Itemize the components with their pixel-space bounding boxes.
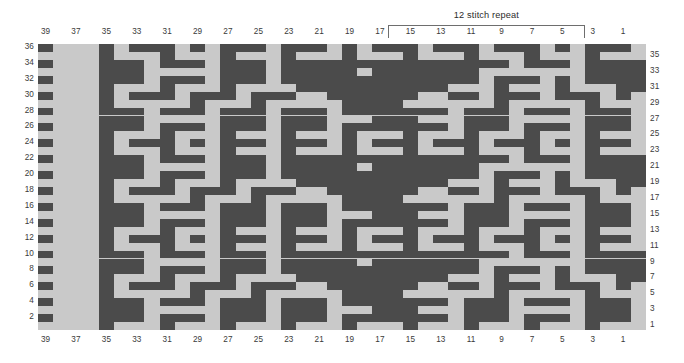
stitch-cell[interactable] [236,139,251,147]
stitch-cell[interactable] [372,251,387,259]
stitch-cell[interactable] [631,68,646,76]
stitch-cell[interactable] [220,92,235,100]
stitch-cell[interactable] [524,235,539,243]
stitch-cell[interactable] [403,123,418,131]
stitch-cell[interactable] [99,116,114,124]
stitch-cell[interactable] [357,155,372,163]
stitch-cell[interactable] [160,274,175,282]
stitch-cell[interactable] [99,68,114,76]
stitch-cell[interactable] [38,203,53,211]
stitch-cell[interactable] [114,203,129,211]
stitch-cell[interactable] [494,187,509,195]
stitch-cell[interactable] [342,139,357,147]
stitch-cell[interactable] [99,227,114,235]
stitch-cell[interactable] [448,163,463,171]
stitch-cell[interactable] [403,211,418,219]
stitch-cell[interactable] [631,84,646,92]
stitch-cell[interactable] [114,155,129,163]
stitch-cell[interactable] [616,116,631,124]
stitch-cell[interactable] [372,163,387,171]
stitch-cell[interactable] [312,211,327,219]
stitch-cell[interactable] [494,211,509,219]
stitch-cell[interactable] [281,52,296,60]
stitch-cell[interactable] [448,251,463,259]
stitch-cell[interactable] [190,155,205,163]
stitch-cell[interactable] [388,44,403,52]
stitch-cell[interactable] [38,251,53,259]
stitch-cell[interactable] [160,266,175,274]
stitch-cell[interactable] [281,131,296,139]
stitch-cell[interactable] [342,84,357,92]
stitch-cell[interactable] [38,314,53,322]
stitch-cell[interactable] [312,298,327,306]
stitch-cell[interactable] [99,195,114,203]
stitch-cell[interactable] [509,235,524,243]
stitch-cell[interactable] [266,282,281,290]
stitch-cell[interactable] [220,298,235,306]
stitch-cell[interactable] [418,266,433,274]
stitch-cell[interactable] [327,171,342,179]
stitch-cell[interactable] [372,171,387,179]
stitch-cell[interactable] [600,139,615,147]
stitch-cell[interactable] [144,92,159,100]
stitch-cell[interactable] [38,187,53,195]
stitch-cell[interactable] [600,251,615,259]
stitch-cell[interactable] [99,171,114,179]
stitch-cell[interactable] [190,187,205,195]
stitch-cell[interactable] [220,322,235,330]
stitch-cell[interactable] [190,139,205,147]
stitch-cell[interactable] [114,266,129,274]
stitch-cell[interactable] [312,266,327,274]
stitch-cell[interactable] [236,306,251,314]
stitch-cell[interactable] [160,251,175,259]
stitch-cell[interactable] [372,76,387,84]
stitch-cell[interactable] [129,187,144,195]
stitch-cell[interactable] [296,44,311,52]
stitch-cell[interactable] [342,100,357,108]
stitch-cell[interactable] [251,116,266,124]
stitch-cell[interactable] [585,147,600,155]
stitch-cell[interactable] [342,131,357,139]
stitch-cell[interactable] [403,282,418,290]
stitch-cell[interactable] [281,108,296,116]
stitch-cell[interactable] [220,243,235,251]
stitch-cell[interactable] [281,139,296,147]
stitch-cell[interactable] [372,116,387,124]
stitch-cell[interactable] [129,92,144,100]
stitch-cell[interactable] [205,282,220,290]
stitch-cell[interactable] [357,108,372,116]
stitch-cell[interactable] [357,123,372,131]
stitch-cell[interactable] [494,139,509,147]
stitch-cell[interactable] [327,282,342,290]
stitch-cell[interactable] [524,131,539,139]
stitch-cell[interactable] [190,60,205,68]
stitch-cell[interactable] [281,219,296,227]
stitch-cell[interactable] [524,203,539,211]
stitch-cell[interactable] [312,306,327,314]
stitch-cell[interactable] [388,203,403,211]
stitch-cell[interactable] [372,139,387,147]
stitch-cell[interactable] [220,306,235,314]
stitch-cell[interactable] [555,235,570,243]
stitch-cell[interactable] [585,123,600,131]
stitch-cell[interactable] [312,314,327,322]
stitch-cell[interactable] [585,171,600,179]
stitch-cell[interactable] [388,155,403,163]
stitch-cell[interactable] [524,123,539,131]
stitch-cell[interactable] [251,100,266,108]
stitch-cell[interactable] [357,171,372,179]
stitch-cell[interactable] [418,123,433,131]
stitch-cell[interactable] [342,123,357,131]
stitch-cell[interactable] [160,123,175,131]
stitch-cell[interactable] [251,163,266,171]
stitch-cell[interactable] [388,282,403,290]
stitch-cell[interactable] [403,155,418,163]
stitch-cell[interactable] [251,219,266,227]
stitch-cell[interactable] [494,298,509,306]
stitch-cell[interactable] [99,259,114,267]
stitch-cell[interactable] [418,108,433,116]
stitch-cell[interactable] [160,52,175,60]
stitch-cell[interactable] [327,274,342,282]
stitch-cell[interactable] [175,171,190,179]
stitch-cell[interactable] [160,155,175,163]
